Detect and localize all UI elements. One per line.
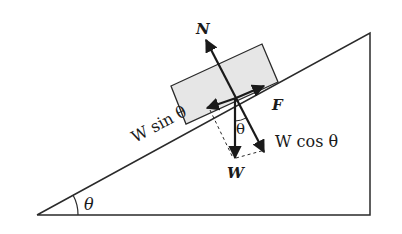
label-w-cos: W cos θ — [275, 132, 338, 151]
label-angle-between: θ — [236, 120, 245, 138]
inclined-plane-diagram: N F W W sin θ W cos θ θ θ — [0, 0, 402, 234]
label-normal-force: N — [195, 20, 211, 38]
label-w-sin: W sin θ — [128, 102, 190, 147]
label-weight: W — [227, 164, 246, 182]
label-friction-force: F — [271, 96, 284, 114]
incline-triangle — [37, 33, 370, 215]
label-vertex-angle: θ — [84, 195, 94, 214]
vertex-angle-arc — [73, 195, 78, 215]
